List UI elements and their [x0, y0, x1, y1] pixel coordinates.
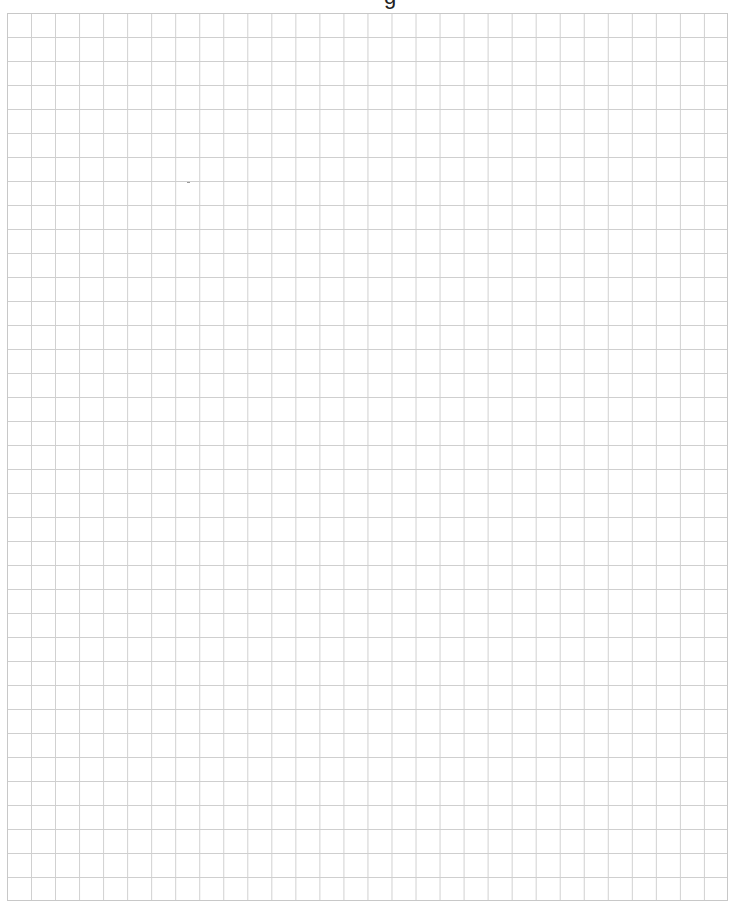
- cropped-header-text: g: [384, 0, 396, 8]
- stray-pencil-mark: [187, 182, 190, 183]
- grid-paper: [7, 13, 728, 901]
